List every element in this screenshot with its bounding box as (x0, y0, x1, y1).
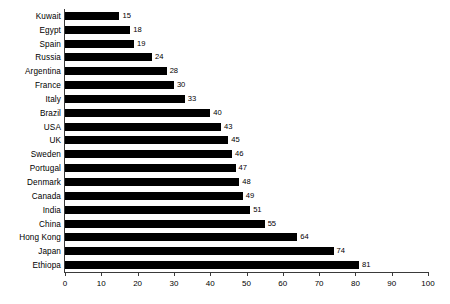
x-axis-tick (138, 272, 139, 276)
bar (65, 247, 334, 255)
bar-value-label: 47 (239, 164, 247, 172)
category-label: Argentina (25, 67, 61, 76)
bar (65, 261, 359, 269)
category-label: USA (44, 122, 61, 131)
bar-value-label: 49 (246, 192, 254, 200)
bar (65, 12, 119, 20)
category-label: Ethiopa (33, 261, 61, 270)
bar-value-label: 15 (122, 12, 130, 20)
bar (65, 53, 152, 61)
category-label: Japan (38, 247, 61, 256)
x-axis-tick (319, 272, 320, 276)
bar (65, 164, 236, 172)
x-axis-tick-label: 10 (97, 279, 106, 289)
bar-row: Portugal47 (65, 161, 428, 175)
bar (65, 26, 130, 34)
bar (65, 136, 228, 144)
category-label: UK (49, 136, 61, 145)
bar (65, 178, 239, 186)
bar-value-label: 45 (231, 136, 239, 144)
category-label: Russia (35, 53, 61, 62)
x-axis-tick-label: 50 (242, 279, 251, 289)
bar-row: USA43 (65, 120, 428, 134)
x-axis-tick-label: 30 (169, 279, 178, 289)
bar (65, 81, 174, 89)
x-axis-tick (392, 272, 393, 276)
x-axis-tick (210, 272, 211, 276)
bar-row: Russia24 (65, 51, 428, 65)
category-label: Italy (45, 94, 61, 103)
category-label: Brazil (40, 108, 61, 117)
bar-value-label: 40 (213, 109, 221, 117)
bar (65, 150, 232, 158)
bar-row: Egypt18 (65, 23, 428, 37)
bar-value-label: 33 (188, 95, 196, 103)
bar (65, 95, 185, 103)
bar-row: Spain19 (65, 37, 428, 51)
bar-value-label: 74 (337, 247, 345, 255)
category-label: Spain (40, 39, 61, 48)
category-label: Egypt (40, 25, 61, 34)
x-axis-tick (355, 272, 356, 276)
bar-value-label: 64 (300, 233, 308, 241)
x-axis-tick-label: 40 (206, 279, 215, 289)
category-label: Portugal (30, 164, 61, 173)
bar-row: China55 (65, 217, 428, 231)
bar-row: France30 (65, 78, 428, 92)
bar (65, 192, 243, 200)
bar-row: Denmark48 (65, 175, 428, 189)
x-axis-tick-label: 20 (133, 279, 142, 289)
x-axis-tick (428, 272, 429, 276)
x-axis-tick-label: 80 (351, 279, 360, 289)
x-axis-tick-label: 90 (387, 279, 396, 289)
bar-row: Canada49 (65, 189, 428, 203)
x-axis-tick-label: 60 (278, 279, 287, 289)
bar-row: Argentina28 (65, 64, 428, 78)
category-label: France (35, 81, 61, 90)
category-label: China (39, 219, 61, 228)
x-axis-tick (283, 272, 284, 276)
category-label: Sweden (31, 150, 61, 159)
bar-row: Japan74 (65, 244, 428, 258)
bar-row: UK45 (65, 134, 428, 148)
bar-row: Italy33 (65, 92, 428, 106)
bar-value-label: 81 (362, 261, 370, 269)
bar-value-label: 28 (170, 67, 178, 75)
bar-value-label: 30 (177, 81, 185, 89)
x-axis-tick-label: 70 (315, 279, 324, 289)
bar-row: Sweden46 (65, 147, 428, 161)
bar-chart: Kuwait15Egypt18Spain19Russia24Argentina2… (0, 0, 450, 304)
category-label: Canada (32, 191, 61, 200)
bar-value-label: 43 (224, 123, 232, 131)
bar-row: Hong Kong64 (65, 230, 428, 244)
bar-row: Ethiopa81 (65, 258, 428, 272)
bar (65, 123, 221, 131)
bar (65, 40, 134, 48)
category-label: Kuwait (36, 11, 61, 20)
bar-row: Kuwait15 (65, 9, 428, 23)
category-label: Hong Kong (19, 233, 61, 242)
bar-value-label: 55 (268, 220, 276, 228)
bar (65, 220, 265, 228)
bar (65, 67, 167, 75)
x-axis-tick-label: 100 (421, 279, 434, 289)
bar (65, 109, 210, 117)
x-axis-tick-label: 0 (63, 279, 67, 289)
x-axis-tick (65, 272, 66, 276)
bar-value-label: 18 (133, 26, 141, 34)
x-axis-tick (174, 272, 175, 276)
bar-value-label: 46 (235, 150, 243, 158)
bar-value-label: 51 (253, 206, 261, 214)
bar-value-label: 24 (155, 53, 163, 61)
bar (65, 206, 250, 214)
x-axis-tick (247, 272, 248, 276)
category-label: India (43, 205, 61, 214)
bar-row: India51 (65, 203, 428, 217)
bar-value-label: 48 (242, 178, 250, 186)
bar-value-label: 19 (137, 40, 145, 48)
x-axis-tick (101, 272, 102, 276)
bar (65, 233, 297, 241)
bar-row: Brazil40 (65, 106, 428, 120)
category-label: Denmark (27, 178, 61, 187)
